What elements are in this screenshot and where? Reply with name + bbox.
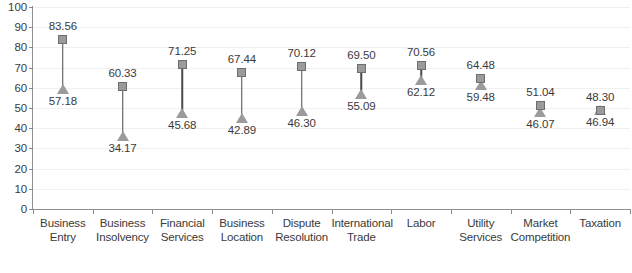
category-label-line2: Services (152, 230, 212, 244)
upper-value-square-marker[interactable] (118, 82, 127, 91)
lower-value-triangle-marker[interactable] (296, 106, 308, 116)
upper-value-square-marker[interactable] (58, 35, 67, 44)
y-axis-tick-label: 10 (0, 183, 27, 194)
x-axis-tick-mark (33, 210, 34, 214)
lower-value-triangle-marker[interactable] (355, 89, 367, 99)
range-marker-group[interactable]: 69.5055.09 (332, 7, 392, 209)
category-label-line1: International (332, 217, 393, 229)
category-label-line2: Competition (511, 230, 571, 244)
upper-value-square-marker[interactable] (237, 68, 246, 77)
lower-value-label: 57.18 (49, 95, 77, 107)
y-axis-tick-mark (29, 27, 33, 28)
x-axis-category-label: InternationalTrade (332, 216, 392, 244)
y-axis-tick-label: 100 (0, 2, 27, 13)
x-axis-tick-mark (332, 210, 333, 214)
x-axis-category-label: MarketCompetition (511, 216, 571, 244)
y-axis-tick-mark (29, 128, 33, 129)
lower-value-label: 34.17 (108, 142, 136, 154)
range-marker-group[interactable]: 64.4859.48 (451, 7, 511, 209)
y-axis-tick-label: 70 (0, 62, 27, 73)
category-label-line1: Business (40, 217, 85, 229)
y-axis-tick-mark (29, 88, 33, 89)
category-label-line2: Trade (332, 230, 392, 244)
y-axis-tick-label: 80 (0, 42, 27, 53)
y-axis-tick-label: 40 (0, 123, 27, 134)
category-label-line1: Labor (407, 217, 436, 229)
x-axis-category-label: Labor (391, 216, 451, 230)
lower-value-label: 46.07 (526, 118, 554, 130)
category-label-line1: Market (523, 217, 557, 229)
upper-value-label: 69.50 (347, 49, 375, 61)
upper-value-square-marker[interactable] (596, 106, 605, 115)
x-axis-category-label: BusinessLocation (212, 216, 272, 244)
x-axis-tick-mark (93, 210, 94, 214)
x-axis-category-label: BusinessEntry (33, 216, 93, 244)
upper-value-label: 64.48 (467, 59, 495, 71)
lower-value-triangle-marker[interactable] (415, 75, 427, 85)
y-axis-tick-mark (29, 7, 33, 8)
y-axis-tick-label: 50 (0, 103, 27, 114)
upper-value-label: 70.56 (407, 46, 435, 58)
range-marker-group[interactable]: 83.5657.18 (33, 7, 93, 209)
range-marker-group[interactable]: 71.2545.68 (152, 7, 212, 209)
lower-value-label: 45.68 (168, 119, 196, 131)
lower-value-label: 46.30 (288, 117, 316, 129)
upper-value-square-marker[interactable] (178, 60, 187, 69)
x-axis-tick-mark (212, 210, 213, 214)
category-label-line1: Business (219, 217, 264, 229)
category-label-line1: Financial (160, 217, 205, 229)
y-axis-tick-mark (29, 47, 33, 48)
upper-value-square-marker[interactable] (536, 101, 545, 110)
category-label-line1: Taxation (579, 217, 621, 229)
category-label-line2: Services (451, 230, 511, 244)
upper-value-label: 51.04 (526, 86, 554, 98)
y-axis-tick-label: 0 (0, 204, 27, 215)
lower-value-label: 55.09 (347, 100, 375, 112)
range-marker-group[interactable]: 70.1246.30 (272, 7, 332, 209)
x-axis: BusinessEntryBusinessInsolvencyFinancial… (33, 216, 630, 266)
lower-value-label: 42.89 (228, 124, 256, 136)
range-marker-group[interactable]: 51.0446.07 (511, 7, 571, 209)
lower-value-triangle-marker[interactable] (57, 84, 69, 94)
lower-value-triangle-marker[interactable] (236, 113, 248, 123)
upper-value-square-marker[interactable] (417, 61, 426, 70)
category-label-line1: Dispute (283, 217, 321, 229)
x-axis-category-label: Taxation (570, 216, 630, 230)
category-label-line1: Utility (467, 217, 494, 229)
category-label-line2: Location (212, 230, 272, 244)
upper-value-label: 60.33 (108, 67, 136, 79)
x-axis-category-label: UtilityServices (451, 216, 511, 244)
range-marker-group[interactable]: 48.3046.94 (570, 7, 630, 209)
x-axis-tick-mark (511, 210, 512, 214)
upper-value-square-marker[interactable] (357, 64, 366, 73)
y-axis-tick-mark (29, 148, 33, 149)
y-axis-tick-label: 90 (0, 22, 27, 33)
y-axis: 0102030405060708090100 (0, 0, 27, 273)
x-axis-tick-mark (152, 210, 153, 214)
y-axis-tick-mark (29, 169, 33, 170)
lower-value-triangle-marker[interactable] (176, 108, 188, 118)
lower-value-label: 62.12 (407, 86, 435, 98)
upper-value-label: 83.56 (49, 20, 77, 32)
x-axis-category-label: FinancialServices (152, 216, 212, 244)
upper-value-label: 70.12 (288, 47, 316, 59)
upper-value-label: 48.30 (586, 91, 614, 103)
y-axis-tick-label: 60 (0, 82, 27, 93)
range-marker-group[interactable]: 70.5662.12 (391, 7, 451, 209)
x-axis-tick-mark (391, 210, 392, 214)
lower-value-label: 59.48 (467, 91, 495, 103)
range-marker-group[interactable]: 60.3334.17 (93, 7, 153, 209)
upper-value-square-marker[interactable] (297, 62, 306, 71)
upper-value-square-marker[interactable] (476, 74, 485, 83)
lower-value-label: 46.94 (586, 116, 614, 128)
category-label-line2: Resolution (272, 230, 332, 244)
range-marker-group[interactable]: 67.4442.89 (212, 7, 272, 209)
y-axis-tick-label: 20 (0, 163, 27, 174)
x-axis-category-label: BusinessInsolvency (93, 216, 153, 244)
plot-area: 83.5657.1860.3334.1771.2545.6867.4442.89… (33, 7, 630, 209)
category-label-line1: Business (100, 217, 145, 229)
lower-value-triangle-marker[interactable] (117, 131, 129, 141)
category-label-line2: Insolvency (93, 230, 153, 244)
x-axis-tick-mark (272, 210, 273, 214)
y-axis-tick-mark (29, 108, 33, 109)
